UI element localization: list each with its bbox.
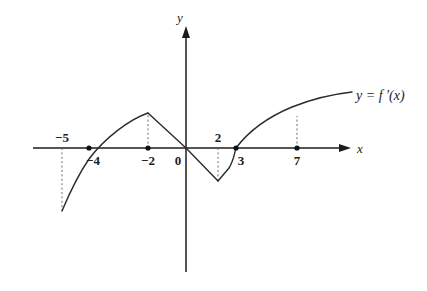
point-x-3 <box>233 145 238 150</box>
point-x-minus-2 <box>145 145 150 150</box>
curve-segment-left-arc <box>62 113 148 211</box>
curve-segment-descending <box>148 113 218 181</box>
tick-label-7: 7 <box>294 153 301 168</box>
y-axis-arrowhead <box>182 26 190 38</box>
tick-label-3: 3 <box>238 153 245 168</box>
tick-label-minus-5: −5 <box>55 130 69 145</box>
graph-figure: y x −5 −4 −2 0 2 3 7 y = f ′(x) <box>0 0 427 291</box>
point-x-7 <box>294 145 299 150</box>
x-axis <box>33 144 351 152</box>
origin-label: 0 <box>175 153 182 168</box>
tick-label-minus-2: −2 <box>141 153 155 168</box>
point-x-minus-4 <box>86 145 91 150</box>
tick-label-2: 2 <box>215 130 222 145</box>
derivative-graph-svg: y x −5 −4 −2 0 2 3 7 y = f ′(x) <box>0 0 427 291</box>
function-label: y = f ′(x) <box>354 88 405 104</box>
y-axis-label: y <box>175 10 183 25</box>
x-axis-label: x <box>356 141 363 156</box>
x-axis-arrowhead <box>339 144 351 152</box>
tick-label-minus-4: −4 <box>86 153 100 168</box>
